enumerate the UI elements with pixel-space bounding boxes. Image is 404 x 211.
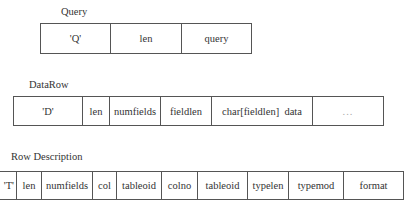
datarow-field-more: ...: [312, 97, 383, 125]
datarow-field-len: len: [82, 97, 109, 125]
query-field-len: len: [110, 24, 181, 53]
rowdesc-field-col: col: [92, 172, 116, 199]
datarow-title: DataRow: [29, 79, 69, 91]
datarow-message-struct: 'D' len numfields fieldlen char[fieldlen…: [13, 96, 384, 126]
query-field-type: 'Q': [41, 24, 110, 53]
rowdescription-title: Row Description: [11, 151, 82, 163]
rowdesc-field-len: len: [16, 172, 41, 199]
datarow-field-type: 'D': [14, 97, 82, 125]
rowdescription-message-struct: 'T' len numfields col tableoid colno tab…: [0, 171, 404, 200]
query-title: Query: [61, 6, 87, 18]
datarow-field-fieldlen: fieldlen: [160, 97, 211, 125]
rowdesc-field-type: 'T': [0, 172, 16, 199]
rowdesc-field-typemod: typemod: [288, 172, 343, 199]
rowdesc-field-tableoid-2: tableoid: [197, 172, 247, 199]
datarow-field-numfields: numfields: [109, 97, 160, 125]
rowdesc-field-typelen: typelen: [247, 172, 288, 199]
rowdesc-field-format: format: [343, 172, 403, 199]
rowdesc-field-numfields: numfields: [41, 172, 92, 199]
query-field-query: query: [181, 24, 251, 53]
query-message-struct: 'Q' len query: [40, 23, 252, 54]
datarow-field-data: char[fieldlen] data: [211, 97, 312, 125]
rowdesc-field-tableoid: tableoid: [116, 172, 161, 199]
rowdesc-field-colno: colno: [161, 172, 197, 199]
